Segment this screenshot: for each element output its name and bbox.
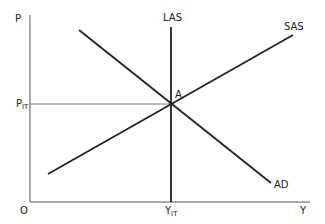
as-ad-diagram: P Y O PIT YIT A LAS SAS AD: [0, 0, 325, 224]
x-axis-label: Y: [299, 205, 307, 216]
equilibrium-label: A: [175, 89, 182, 100]
las-label: LAS: [163, 12, 182, 23]
y-axis-label: P: [15, 13, 21, 24]
ad-curve: [79, 30, 271, 183]
price-level-label: PIT: [16, 98, 29, 111]
output-level-label: YIT: [164, 205, 178, 218]
equilibrium-point: [169, 102, 173, 106]
ad-label: AD: [274, 179, 289, 190]
sas-label: SAS: [284, 21, 304, 32]
origin-label: O: [20, 205, 28, 216]
